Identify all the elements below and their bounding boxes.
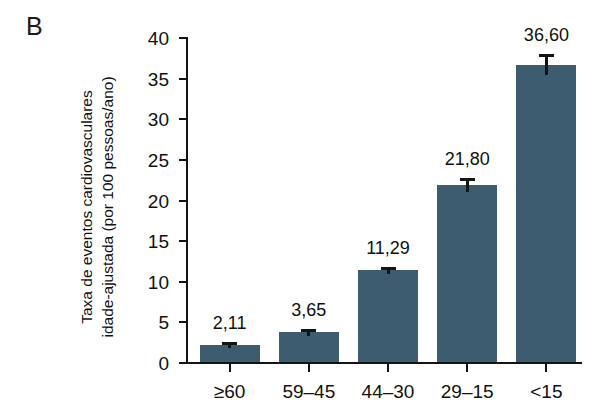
y-tick-10: 10	[179, 281, 186, 283]
x-tick-label: 29–15	[441, 382, 494, 401]
bar-value-label: 21,80	[445, 150, 490, 168]
error-bar-cap-top	[460, 178, 475, 181]
bar-value-label: 3,65	[291, 301, 326, 319]
x-axis-line	[186, 362, 582, 364]
x-tick-label: ≥60	[214, 382, 246, 401]
x-tick-label: <15	[530, 382, 562, 401]
y-tick-label-40: 40	[148, 29, 169, 48]
y-axis-title: Taxa de eventos cardiovasculares idade-a…	[76, 32, 118, 382]
x-tick	[545, 364, 547, 372]
x-tick	[229, 364, 231, 372]
y-axis-title-line-1: Taxa de eventos cardiovasculares	[76, 32, 97, 382]
bar-value-label: 2,11	[213, 314, 247, 332]
bar	[279, 332, 339, 362]
y-tick-label-0: 0	[158, 354, 169, 373]
bar	[358, 270, 418, 362]
y-tick-label-10: 10	[148, 272, 169, 291]
bar	[516, 65, 576, 362]
y-tick-15: 15	[179, 240, 186, 242]
error-bar	[222, 342, 237, 348]
x-tick	[308, 364, 310, 372]
error-bar-cap-top	[222, 342, 237, 345]
y-tick-20: 20	[179, 200, 186, 202]
y-tick-35: 35	[179, 78, 186, 80]
error-bar-cap-top	[539, 54, 554, 57]
y-tick-label-15: 15	[148, 232, 169, 251]
y-axis-line	[186, 37, 188, 362]
bar-value-label: 36,60	[524, 26, 569, 44]
y-tick-40: 40	[179, 37, 186, 39]
error-bar-stem	[545, 54, 548, 75]
y-tick-label-30: 30	[148, 110, 169, 129]
error-bar	[381, 267, 396, 274]
bar	[437, 185, 497, 362]
y-tick-25: 25	[179, 159, 186, 161]
y-tick-label-35: 35	[148, 69, 169, 88]
x-tick-label: 44–30	[362, 382, 415, 401]
y-tick-label-20: 20	[148, 191, 169, 210]
y-tick-30: 30	[179, 118, 186, 120]
y-tick-label-5: 5	[158, 313, 169, 332]
y-tick-label-25: 25	[148, 150, 169, 169]
y-tick-0: 0	[179, 362, 186, 364]
y-axis-title-line-2: idade-ajustada (por 100 pessoas/ano)	[97, 32, 118, 382]
plot-area: 0510152025303540 ≥6059–4544–3029–15<15 2…	[186, 37, 582, 362]
error-bar	[539, 54, 554, 75]
x-tick-label: 59–45	[282, 382, 335, 401]
x-tick	[387, 364, 389, 372]
panel-label: B	[26, 14, 43, 39]
bar-value-label: 11,29	[366, 239, 410, 257]
x-tick	[466, 364, 468, 372]
figure-panel-b: B Taxa de eventos cardiovasculares idade…	[0, 0, 598, 406]
error-bar	[301, 329, 316, 336]
y-tick-5: 5	[179, 321, 186, 323]
error-bar	[460, 178, 475, 193]
error-bar-cap-top	[301, 329, 316, 332]
error-bar-cap-top	[381, 267, 396, 270]
